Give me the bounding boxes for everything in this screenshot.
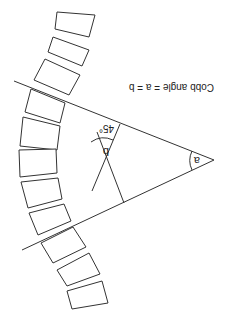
cobb-angle-title: Cobb angle = a = b [128, 82, 214, 93]
vertebra-11 [67, 281, 108, 309]
vertebra-7 [21, 178, 62, 208]
angle-a-arc [190, 151, 192, 170]
spine [19, 12, 108, 309]
angle-b-label: b [103, 146, 109, 158]
vertebra-3 [34, 59, 80, 95]
vertebra-2 [48, 37, 89, 66]
diagram-svg: a b 45° Cobb angle = a = b [0, 0, 229, 318]
perpendicular-angle-label: 45° [99, 123, 114, 134]
angle-b-arc [91, 138, 113, 142]
vertebra-6 [19, 149, 57, 177]
perpendicular-line-2 [97, 132, 124, 203]
vertebra-1 [55, 12, 95, 37]
vertebra-4 [25, 89, 65, 123]
vertebra-5 [20, 117, 60, 150]
vertebra-9 [41, 227, 86, 263]
cobb-angle-diagram: a b 45° Cobb angle = a = b [0, 0, 229, 318]
angle-a-label: a [193, 155, 200, 167]
